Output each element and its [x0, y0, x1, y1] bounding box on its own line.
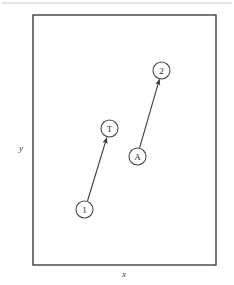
node-a-label: A — [134, 152, 141, 162]
x-axis-label: x — [121, 269, 126, 279]
plot-frame — [33, 15, 216, 265]
node-2-label: 2 — [159, 66, 164, 76]
node-a: A — [129, 148, 146, 165]
node-t: T — [101, 120, 118, 137]
node-1-label: 1 — [82, 205, 87, 215]
figure-canvas: 1 T A 2 y x — [0, 0, 234, 285]
node-1: 1 — [76, 201, 93, 218]
arrow-a-to-2 — [140, 79, 160, 148]
y-axis-label: y — [18, 143, 23, 153]
vector-diagram-figure: 1 T A 2 y x — [0, 0, 234, 285]
node-2: 2 — [153, 62, 170, 79]
arrow-1-to-t — [88, 138, 107, 201]
node-t-label: T — [107, 124, 113, 134]
